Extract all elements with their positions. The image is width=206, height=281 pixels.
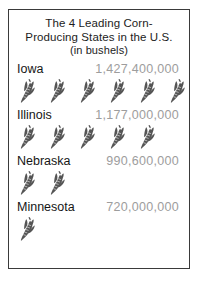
chart-rows: Iowa1,427,400,000Illinois1,177,000,000Ne… — [9, 60, 189, 246]
state-value: 1,177,000,000 — [95, 108, 189, 122]
chart-row: Minnesota720,000,000 — [9, 200, 189, 246]
corn-ear-icon — [47, 170, 68, 198]
row-header: Iowa1,427,400,000 — [17, 62, 189, 79]
pictograph-chart: The 4 Leading Corn- Producing States in … — [8, 9, 190, 269]
icon-row — [17, 78, 189, 108]
row-header: Nebraska990,600,000 — [17, 154, 189, 171]
icon-row — [17, 124, 189, 154]
corn-ear-icon — [47, 124, 68, 152]
corn-ear-icon — [47, 78, 68, 106]
corn-ear-icon — [77, 78, 98, 106]
corn-ear-icon — [17, 78, 38, 106]
state-value: 720,000,000 — [106, 200, 189, 214]
state-label: Nebraska — [17, 154, 71, 168]
chart-row: Illinois1,177,000,000 — [9, 108, 189, 154]
title-line-1: The 4 Leading Corn- — [15, 17, 183, 31]
state-label: Iowa — [17, 62, 43, 76]
title-line-3: (in bushels) — [15, 44, 183, 58]
corn-ear-icon — [107, 124, 128, 152]
corn-ear-icon — [17, 216, 38, 244]
corn-ear-icon — [77, 124, 98, 152]
row-header: Minnesota720,000,000 — [17, 200, 189, 217]
state-label: Minnesota — [17, 200, 75, 214]
title-line-2: Producing States in the U.S. — [15, 31, 183, 45]
row-header: Illinois1,177,000,000 — [17, 108, 189, 125]
icon-row — [17, 216, 189, 246]
chart-title: The 4 Leading Corn- Producing States in … — [9, 10, 189, 60]
corn-ear-icon — [137, 78, 158, 106]
corn-ear-icon — [167, 78, 188, 106]
state-value: 1,427,400,000 — [95, 62, 189, 76]
state-label: Illinois — [17, 108, 52, 122]
corn-ear-icon — [17, 170, 38, 198]
chart-row: Iowa1,427,400,000 — [9, 62, 189, 108]
corn-ear-icon — [107, 78, 128, 106]
state-value: 990,600,000 — [106, 154, 189, 168]
corn-ear-icon — [137, 124, 158, 152]
chart-row: Nebraska990,600,000 — [9, 154, 189, 200]
icon-row — [17, 170, 189, 200]
corn-ear-icon — [17, 124, 38, 152]
